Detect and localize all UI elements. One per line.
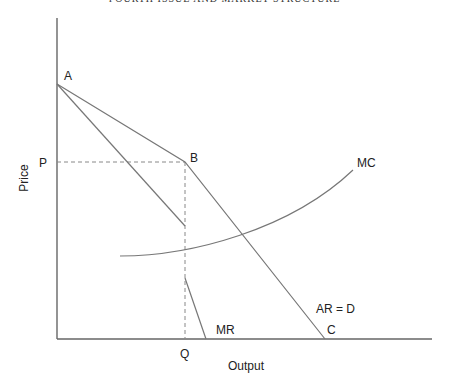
mr-upper-segment bbox=[57, 84, 185, 226]
x-axis-label: Output bbox=[228, 359, 265, 373]
point-a-label: A bbox=[64, 69, 72, 83]
mc-curve bbox=[120, 170, 353, 256]
quantity-q-label: Q bbox=[180, 347, 189, 361]
y-axis-label: Price bbox=[17, 164, 31, 192]
mr-lower-segment bbox=[185, 278, 206, 339]
mr-label: MR bbox=[216, 323, 235, 337]
mc-label: MC bbox=[357, 156, 376, 170]
point-b-label: B bbox=[190, 151, 198, 165]
kinked-demand-diagram: A B C P Q MC MR AR = D Output Price bbox=[0, 0, 449, 391]
price-p-label: P bbox=[39, 156, 47, 170]
point-c-label: C bbox=[327, 323, 336, 337]
demand-curve-ar-d bbox=[57, 84, 325, 339]
ar-d-label: AR = D bbox=[316, 302, 355, 316]
